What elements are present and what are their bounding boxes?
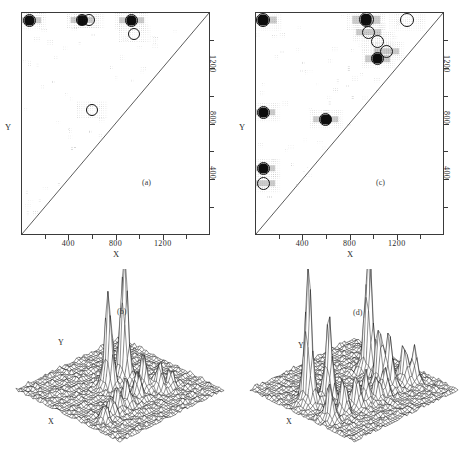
panel-a-plot-area bbox=[21, 12, 210, 235]
contour-speckle bbox=[99, 133, 103, 138]
peak-marker bbox=[128, 28, 140, 40]
contour-speckle bbox=[130, 79, 133, 82]
contour-speckle bbox=[258, 142, 264, 147]
contour-speckle bbox=[309, 70, 313, 73]
contour-speckle bbox=[36, 63, 39, 67]
contour-speckle bbox=[34, 36, 41, 42]
contour-speckle bbox=[315, 83, 319, 85]
contour-speckle bbox=[302, 138, 306, 143]
contour-speckle bbox=[274, 54, 278, 59]
figure-root: Y X (a) 40080012001200800400 Y X (c) 400… bbox=[0, 0, 467, 473]
panel-c-y-axis-title: Y bbox=[239, 122, 245, 132]
y-tick-label: 1200 bbox=[442, 55, 451, 73]
peak-ring bbox=[257, 106, 270, 119]
y-tick-minor bbox=[210, 96, 214, 97]
peak-ring bbox=[257, 177, 270, 190]
peak-ring bbox=[128, 28, 140, 40]
contour-speckle bbox=[345, 85, 348, 87]
contour-speckle bbox=[26, 190, 28, 194]
x-tick-label: 400 bbox=[62, 239, 75, 248]
x-tick-label: 800 bbox=[343, 239, 356, 248]
x-tick-label: 1200 bbox=[388, 239, 406, 248]
contour-speckle bbox=[336, 78, 338, 83]
contour-speckle bbox=[55, 120, 61, 123]
contour-speckle bbox=[297, 25, 301, 29]
contour-speckle bbox=[109, 65, 112, 69]
contour-speckle bbox=[376, 89, 381, 94]
panel-b-surface bbox=[12, 269, 228, 465]
contour-speckle bbox=[284, 148, 287, 151]
x-tick-minor bbox=[373, 235, 374, 239]
panel-c-data-layer bbox=[255, 12, 444, 235]
panel-d-tag: (d) bbox=[353, 308, 362, 317]
panel-d-surface bbox=[246, 269, 462, 465]
panel-a-data-layer bbox=[21, 12, 210, 235]
contour-speckle bbox=[119, 55, 124, 61]
contour-speckle bbox=[42, 187, 48, 190]
contour-speckle bbox=[266, 196, 272, 198]
y-tick-minor bbox=[444, 151, 448, 152]
contour-speckle bbox=[27, 211, 29, 216]
x-tick-minor bbox=[420, 235, 421, 239]
contour-speckle bbox=[317, 140, 324, 143]
contour-speckle bbox=[290, 163, 293, 167]
contour-speckle bbox=[39, 198, 41, 202]
contour-speckle bbox=[173, 30, 177, 33]
peak-ring bbox=[371, 52, 384, 65]
contour-speckle bbox=[54, 55, 59, 59]
contour-speckle bbox=[91, 34, 95, 36]
y-tick-minor bbox=[444, 40, 448, 41]
contour-speckle bbox=[327, 96, 332, 100]
peak-marker bbox=[400, 13, 414, 27]
y-tick-major bbox=[444, 179, 449, 180]
contour-speckle bbox=[301, 62, 304, 64]
contour-speckle bbox=[65, 92, 68, 95]
y-tick-label: 400 bbox=[442, 166, 451, 179]
contour-speckle bbox=[307, 166, 309, 168]
contour-speckle bbox=[329, 101, 332, 105]
peak-ring bbox=[256, 13, 270, 27]
peak-marker bbox=[257, 162, 270, 175]
contour-speckle bbox=[23, 107, 28, 110]
contour-speckle bbox=[374, 77, 381, 82]
peak-marker bbox=[23, 14, 36, 27]
contour-speckle bbox=[256, 33, 261, 37]
panel-a-x-axis-title: X bbox=[113, 249, 119, 259]
contour-speckle bbox=[140, 71, 144, 74]
contour-speckle bbox=[322, 146, 326, 150]
x-tick-minor bbox=[45, 235, 46, 239]
x-tick-label: 1200 bbox=[154, 239, 172, 248]
peak-ring bbox=[319, 113, 332, 126]
contour-speckle bbox=[305, 173, 312, 177]
peak-marker bbox=[257, 177, 270, 190]
contour-speckle bbox=[346, 123, 350, 126]
contour-speckle bbox=[140, 66, 146, 71]
contour-speckle bbox=[280, 51, 284, 53]
y-tick-label: 400 bbox=[208, 166, 217, 179]
peak-marker bbox=[319, 113, 332, 126]
panel-d-x-axis-label: X bbox=[286, 417, 292, 426]
panel-a: Y X (a) 40080012001200800400 bbox=[0, 0, 233, 265]
x-tick-label: 400 bbox=[296, 239, 309, 248]
y-tick-minor bbox=[210, 40, 214, 41]
x-tick-minor bbox=[279, 235, 280, 239]
contour-speckle bbox=[255, 211, 257, 214]
panel-c-tag: (c) bbox=[376, 178, 385, 187]
contour-speckle bbox=[69, 96, 72, 101]
contour-speckle bbox=[359, 73, 362, 76]
y-tick-minor bbox=[444, 96, 448, 97]
y-tick-minor bbox=[444, 207, 448, 208]
contour-speckle bbox=[46, 40, 52, 45]
contour-speckle bbox=[58, 182, 60, 185]
contour-speckle bbox=[63, 46, 68, 50]
contour-speckle bbox=[33, 210, 38, 215]
peak-marker bbox=[257, 106, 270, 119]
contour-speckle bbox=[40, 84, 44, 89]
panel-c: Y X (c) 40080012001200800400 bbox=[234, 0, 467, 265]
contour-speckle bbox=[25, 204, 32, 209]
contour-speckle bbox=[136, 45, 142, 48]
contour-speckle bbox=[74, 146, 76, 149]
panel-b-y-axis-label: Y bbox=[58, 338, 64, 347]
contour-speckle bbox=[331, 47, 338, 52]
contour-speckle bbox=[115, 76, 117, 81]
